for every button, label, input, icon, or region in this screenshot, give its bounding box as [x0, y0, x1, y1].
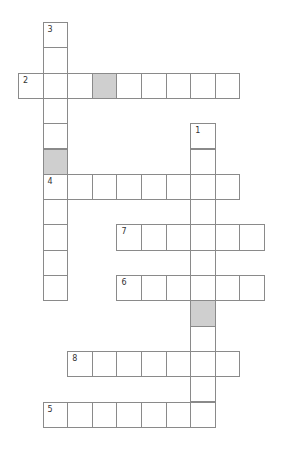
crossword-cell[interactable] — [116, 402, 142, 428]
crossword-cell[interactable]: 1 — [190, 123, 216, 149]
crossword-cell[interactable] — [67, 73, 93, 99]
crossword-cell[interactable] — [43, 250, 69, 276]
crossword-cell[interactable] — [92, 351, 118, 377]
crossword-cell[interactable] — [190, 351, 216, 377]
clue-number: 7 — [121, 228, 126, 236]
crossword-cell[interactable] — [190, 250, 216, 276]
crossword-cell[interactable] — [166, 351, 192, 377]
crossword-cell[interactable] — [190, 224, 216, 250]
crossword-cell[interactable] — [116, 73, 142, 99]
crossword-grid: 12345678 — [0, 0, 281, 452]
crossword-cell[interactable] — [141, 402, 167, 428]
crossword-cell[interactable] — [43, 123, 69, 149]
crossword-cell[interactable] — [166, 402, 192, 428]
crossword-cell[interactable] — [43, 73, 69, 99]
crossword-cell[interactable] — [67, 174, 93, 200]
shaded-cell — [92, 73, 118, 99]
crossword-cell[interactable] — [190, 199, 216, 225]
crossword-cell[interactable] — [190, 73, 216, 99]
crossword-cell[interactable] — [141, 73, 167, 99]
crossword-cell[interactable] — [43, 275, 69, 301]
clue-number: 8 — [72, 355, 77, 363]
clue-number: 2 — [23, 77, 28, 85]
clue-number: 6 — [121, 279, 126, 287]
crossword-cell[interactable]: 8 — [67, 351, 93, 377]
crossword-cell[interactable]: 6 — [116, 275, 142, 301]
crossword-cell[interactable] — [116, 351, 142, 377]
crossword-cell[interactable] — [215, 275, 241, 301]
crossword-cell[interactable]: 7 — [116, 224, 142, 250]
crossword-cell[interactable] — [190, 402, 216, 428]
crossword-cell[interactable] — [43, 98, 69, 124]
crossword-cell[interactable] — [215, 224, 241, 250]
clue-number: 1 — [195, 127, 200, 135]
crossword-cell[interactable] — [43, 47, 69, 73]
clue-number: 3 — [48, 26, 53, 34]
crossword-cell[interactable] — [215, 351, 241, 377]
shaded-cell — [43, 149, 69, 175]
crossword-cell[interactable] — [239, 275, 265, 301]
crossword-cell[interactable] — [92, 402, 118, 428]
clue-number: 5 — [48, 406, 53, 414]
crossword-cell[interactable] — [190, 174, 216, 200]
crossword-cell[interactable] — [43, 224, 69, 250]
crossword-cell[interactable] — [239, 224, 265, 250]
crossword-cell[interactable] — [190, 376, 216, 402]
crossword-cell[interactable] — [141, 275, 167, 301]
crossword-cell[interactable] — [215, 174, 241, 200]
crossword-cell[interactable]: 4 — [43, 174, 69, 200]
crossword-cell[interactable] — [190, 326, 216, 352]
crossword-cell[interactable] — [190, 149, 216, 175]
crossword-cell[interactable]: 3 — [43, 22, 69, 48]
crossword-cell[interactable] — [43, 199, 69, 225]
crossword-cell[interactable] — [141, 224, 167, 250]
crossword-cell[interactable] — [141, 174, 167, 200]
shaded-cell — [190, 300, 216, 326]
crossword-cell[interactable] — [166, 224, 192, 250]
crossword-cell[interactable] — [92, 174, 118, 200]
crossword-cell[interactable] — [166, 174, 192, 200]
clue-number: 4 — [48, 178, 53, 186]
crossword-cell[interactable] — [141, 351, 167, 377]
crossword-cell[interactable] — [215, 73, 241, 99]
crossword-cell[interactable] — [166, 275, 192, 301]
crossword-cell[interactable] — [67, 402, 93, 428]
crossword-cell[interactable] — [116, 174, 142, 200]
crossword-cell[interactable] — [166, 73, 192, 99]
crossword-cell[interactable] — [190, 275, 216, 301]
crossword-cell[interactable]: 5 — [43, 402, 69, 428]
crossword-cell[interactable]: 2 — [18, 73, 44, 99]
